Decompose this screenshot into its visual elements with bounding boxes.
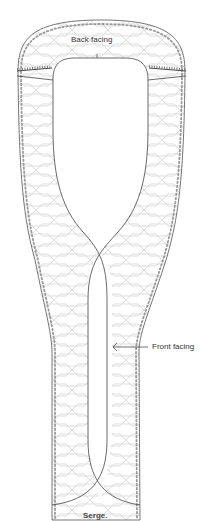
front-facing-label: Front facing <box>152 342 194 351</box>
figure-caption: Serge. <box>83 511 107 520</box>
facing-diagram <box>0 0 203 521</box>
back-facing-label: Back facing <box>71 35 112 44</box>
